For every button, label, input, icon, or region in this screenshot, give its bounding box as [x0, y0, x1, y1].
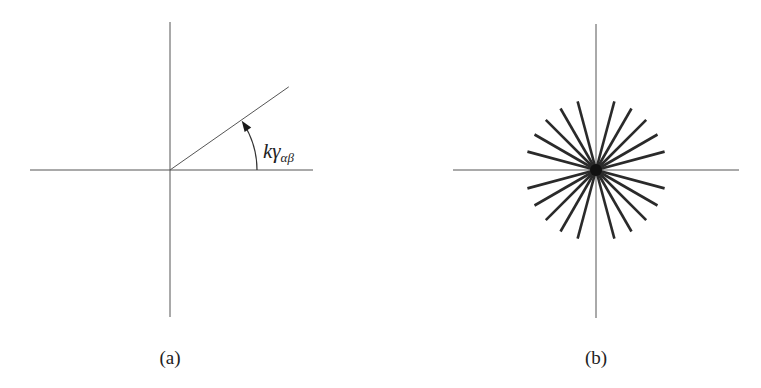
panel-b: (b)	[453, 24, 739, 369]
arrowhead-icon	[242, 121, 252, 132]
angle-label-base: kγ	[263, 139, 281, 163]
panel-b-caption: (b)	[585, 347, 607, 369]
panel-a: kγαβ (a)	[30, 22, 313, 369]
panel-b-center-blob	[590, 164, 602, 176]
panel-a-caption: (a)	[159, 347, 180, 369]
diagram-canvas: kγαβ (a) (b)	[0, 0, 761, 388]
panel-a-angle-label: kγαβ	[263, 139, 294, 165]
angle-label-subscript: αβ	[281, 150, 295, 165]
panel-a-angle-arc	[245, 125, 257, 170]
